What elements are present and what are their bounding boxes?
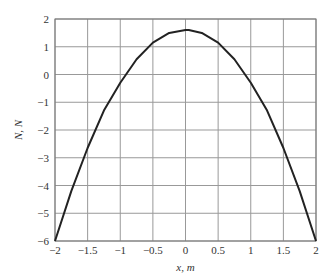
y-tick-label: 1 [44, 41, 50, 53]
grid-lines [55, 19, 316, 241]
x-tick-label: 0 [183, 244, 189, 256]
chart: 210−1−2−3−4−5−6 −2−1.5−1−0.500.511.52 x,… [0, 0, 332, 279]
y-tick-label: −3 [37, 152, 49, 164]
x-tick-label: 1 [248, 244, 254, 256]
x-tick-label: 2 [313, 244, 319, 256]
y-tick-label: −2 [37, 124, 49, 136]
y-tick-label: 0 [44, 69, 50, 81]
y-tick-label: −5 [37, 207, 49, 219]
x-tick-label: −1 [114, 244, 126, 256]
y-tick-label: 2 [44, 13, 50, 25]
x-tick-label: 0.5 [211, 244, 225, 256]
x-tick-label: −1.5 [78, 244, 98, 256]
x-tick-label: 1.5 [277, 244, 291, 256]
y-axis-label: N, N [12, 119, 24, 141]
y-tick-label: −4 [37, 180, 49, 192]
y-tick-label: −6 [37, 235, 49, 247]
x-axis-label: x, m [175, 261, 194, 273]
x-axis-ticks: −2−1.5−1−0.500.511.52 [49, 244, 319, 256]
y-tick-label: −1 [37, 96, 49, 108]
y-axis-ticks: 210−1−2−3−4−5−6 [37, 13, 49, 247]
x-tick-label: −0.5 [143, 244, 163, 256]
x-tick-label: −2 [49, 244, 61, 256]
